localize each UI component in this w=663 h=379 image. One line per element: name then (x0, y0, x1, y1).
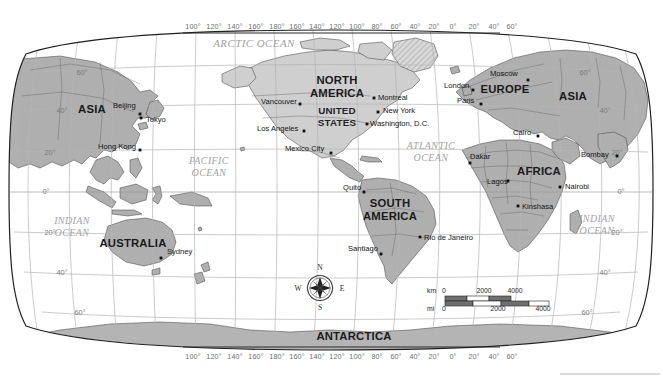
city-marker-montreal (373, 97, 376, 100)
city-label-kinshasa: Kinshasa (522, 202, 554, 211)
city-label-quito: Quito (343, 183, 361, 192)
city-label-vancouver: Vancouver (261, 97, 297, 106)
longitude-label-bottom-14: 20° (468, 352, 479, 361)
latitude-label-right-5: 40° (599, 268, 610, 277)
city-marker-hong-kong (139, 149, 142, 152)
continent-label-asia: ASIA (559, 90, 587, 102)
country-label-united-states: UNITEDSTATES (318, 105, 357, 128)
scale-mi-unit: mi (427, 305, 435, 312)
latitude-label-right-1: 40° (599, 106, 610, 115)
longitude-label-top-13: 0° (449, 22, 456, 31)
continent-label-australia: AUSTRALIA (99, 237, 166, 249)
scale-km-tick-2: 4000 (507, 287, 522, 294)
scale-km-tick-0: 0 (442, 287, 446, 294)
compass-north-label: N (317, 263, 323, 272)
scale-km-unit: km (427, 287, 436, 294)
longitude-label-top-3: 160° (248, 22, 263, 31)
longitude-label-top-8: 100° (349, 22, 364, 31)
ocean-label-line: OCEAN (55, 227, 91, 238)
city-marker-london (472, 89, 475, 92)
longitude-label-bottom-10: 60° (390, 352, 401, 361)
ocean-label-line: OCEAN (414, 152, 450, 163)
continent-label-line: AUSTRALIA (99, 237, 166, 249)
latitude-label-left-2: 20° (44, 148, 55, 157)
longitude-labels-bottom: 100°120°140°160°180°160°140°120°100°80°6… (185, 352, 517, 361)
longitude-label-bottom-16: 60° (506, 352, 517, 361)
city-label-london: London (444, 81, 469, 90)
longitude-label-bottom-6: 140° (309, 352, 324, 361)
longitude-label-top-2: 140° (227, 22, 242, 31)
longitude-label-bottom-8: 100° (349, 352, 364, 361)
longitude-label-top-5: 160° (289, 22, 304, 31)
scale-mi-tick-2: 4000 (535, 305, 550, 312)
longitude-label-bottom-2: 140° (227, 352, 242, 361)
continent-label-north-america: NORTHAMERICA (310, 74, 364, 99)
city-marker-dakar (469, 162, 472, 165)
longitude-label-top-1: 120° (206, 22, 221, 31)
ocean-label-line: PACIFIC (188, 155, 229, 166)
ocean-label-indian-ocean: INDIANOCEAN (578, 213, 616, 236)
longitude-label-bottom-15: 40° (488, 352, 499, 361)
city-marker-bombay (616, 155, 619, 158)
city-label-nairobi: Nairobi (565, 182, 589, 191)
city-label-tokyo: Tokyo (146, 115, 166, 124)
latitude-label-right-3: 0° (617, 187, 624, 196)
latitude-label-left-0: 60° (76, 68, 87, 77)
city-label-beijing: Beijing (113, 101, 136, 110)
city-label-hong-kong: Hong Kong (98, 142, 136, 151)
city-marker-tokyo (140, 117, 143, 120)
country-labels: UNITEDSTATES (318, 105, 357, 128)
city-label-lagos: Lagos (487, 177, 508, 186)
compass-west-label: W (294, 284, 302, 293)
city-marker-rio-de-janeiro (419, 236, 422, 239)
longitude-label-bottom-0: 100° (185, 352, 200, 361)
longitude-label-top-11: 40° (409, 22, 420, 31)
city-label-sydney: Sydney (167, 247, 193, 256)
scale-bar-km (445, 296, 511, 301)
continent-label-south-america: SOUTHAMERICA (363, 197, 417, 222)
country-label-line: STATES (318, 117, 357, 128)
latitude-label-right-0: 60° (579, 68, 590, 77)
longitude-label-bottom-4: 180° (269, 352, 284, 361)
ocean-label-line: ATLANTIC (406, 140, 455, 151)
city-marker-nairobi (559, 186, 562, 189)
city-marker-los-angeles (303, 130, 306, 133)
city-label-mexico-city: Mexico City (285, 144, 324, 153)
scale-km-tick-1: 2000 (476, 287, 491, 294)
city-label-new-york: New York (383, 106, 415, 115)
longitude-label-top-10: 60° (390, 22, 401, 31)
longitude-label-bottom-13: 0° (449, 352, 456, 361)
longitude-label-top-14: 20° (468, 22, 479, 31)
city-label-montreal: Montreal (378, 93, 408, 102)
city-marker-cairo (537, 135, 540, 138)
city-marker-paris (480, 103, 483, 106)
city-marker-santiago (380, 253, 383, 256)
longitude-label-bottom-5: 160° (289, 352, 304, 361)
compass-south-label: S (318, 303, 322, 312)
longitude-label-top-12: 20° (428, 22, 439, 31)
city-label-cairo: Cairo (513, 128, 531, 137)
city-marker-quito (363, 191, 366, 194)
longitude-label-top-16: 60° (506, 22, 517, 31)
city-label-bombay: Bombay (581, 150, 609, 159)
city-marker-new-york (377, 111, 380, 114)
continent-label-europe: EUROPE (481, 83, 530, 95)
city-label-rio-de-janeiro: Rio de Janeiro (424, 233, 473, 242)
ocean-label-line: OCEAN (580, 225, 616, 236)
continent-label-asia: ASIA (78, 103, 106, 115)
city-label-paris: Paris (457, 96, 475, 105)
compass-east-label: E (340, 284, 345, 293)
city-label-los-angeles: Los Angeles (257, 124, 299, 133)
continent-label-line: AMERICA (363, 210, 417, 222)
longitude-label-top-15: 40° (488, 22, 499, 31)
latitude-label-left-6: 60° (74, 308, 85, 317)
longitude-label-bottom-12: 20° (428, 352, 439, 361)
latitude-label-left-5: 40° (56, 268, 67, 277)
city-label-santiago: Santiago (348, 244, 378, 253)
longitude-label-bottom-11: 40° (409, 352, 420, 361)
longitude-label-bottom-7: 120° (329, 352, 344, 361)
continent-label-line: ASIA (78, 103, 106, 115)
country-label-line: UNITED (318, 105, 356, 116)
ocean-label-line: INDIAN (53, 215, 91, 226)
land-pacific-islands (198, 227, 202, 231)
